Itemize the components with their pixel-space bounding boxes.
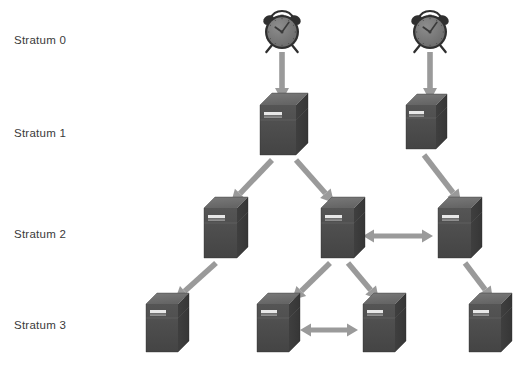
server-led-strip	[367, 310, 383, 313]
server-led-strip	[442, 215, 459, 218]
stratum-hierarchy-diagram	[0, 0, 525, 374]
arrow-head-end	[347, 324, 358, 337]
server-led-strip	[264, 112, 282, 115]
arrow-shaft	[346, 261, 373, 292]
server-stratum3-b	[257, 293, 300, 352]
servers-layer	[146, 93, 512, 352]
server-led-strip-secondary	[150, 314, 166, 315]
server-led-strip	[409, 111, 424, 114]
server-stratum3-d	[469, 293, 512, 352]
clock-tick	[423, 20, 424, 21]
arrow-stratum1-a-to-stratum2-b	[294, 158, 334, 203]
arrow-shaft	[183, 261, 218, 293]
server-led-strip	[325, 215, 342, 218]
server-stratum2-c	[438, 197, 482, 258]
label-stratum-1: Stratum 1	[14, 128, 66, 140]
arrow-shaft	[463, 261, 488, 291]
arrow-shaft	[238, 158, 274, 195]
reference-clock-right	[409, 11, 450, 52]
server-led-strip-secondary	[325, 219, 342, 220]
server-led-strip-secondary	[208, 219, 225, 220]
server-led-strip	[473, 310, 489, 313]
arrow-shaft	[311, 327, 347, 332]
clock-tick	[275, 20, 276, 21]
clock-tick	[275, 43, 276, 44]
clock-tick	[288, 20, 289, 21]
clock-tick	[436, 43, 437, 44]
clock-tick	[293, 25, 294, 26]
arrow-shaft	[422, 153, 456, 194]
arrow-stratum1-a-to-stratum2-a	[231, 158, 274, 203]
clock-tick	[423, 43, 424, 44]
clock-tick	[441, 25, 442, 26]
arrow-shaft	[299, 261, 332, 293]
server-stratum2-a	[204, 197, 248, 258]
clocks-layer	[261, 11, 450, 52]
arrow-head-end	[422, 230, 433, 243]
arrow-stratum1-b-to-stratum2-c	[422, 153, 461, 203]
reference-clock-left	[261, 11, 302, 52]
arrow-peer-stratum2-b-c	[363, 230, 433, 243]
server-stratum1-a	[260, 93, 308, 155]
server-stratum2-b	[321, 197, 365, 258]
clock-center-pin	[281, 31, 284, 34]
clock-tick	[270, 38, 271, 39]
clock-tick	[441, 38, 442, 39]
label-stratum-2: Stratum 2	[14, 229, 66, 241]
server-led-strip	[150, 310, 166, 313]
server-led-strip-secondary	[261, 314, 277, 315]
server-led-strip	[208, 215, 225, 218]
server-stratum1-b	[406, 94, 447, 149]
arrow-shaft	[427, 52, 433, 88]
clock-tick	[418, 38, 419, 39]
clock-tick	[418, 25, 419, 26]
arrow-head-start	[300, 324, 311, 337]
label-stratum-0: Stratum 0	[14, 35, 66, 47]
clock-tick	[288, 43, 289, 44]
server-led-strip-secondary	[367, 314, 383, 315]
server-led-strip-secondary	[409, 115, 424, 116]
arrow-shaft	[374, 233, 422, 238]
server-stratum3-a	[146, 293, 189, 352]
server-led-strip	[261, 310, 277, 313]
server-led-strip-secondary	[442, 219, 459, 220]
diagram-canvas: Stratum 0Stratum 1Stratum 2Stratum 3	[0, 0, 525, 374]
server-stratum3-c	[363, 293, 406, 352]
label-stratum-3: Stratum 3	[14, 320, 66, 332]
clock-tick	[436, 20, 437, 21]
clock-tick	[293, 38, 294, 39]
arrow-shaft	[279, 52, 285, 88]
clock-center-pin	[429, 31, 432, 34]
server-led-strip-secondary	[473, 314, 489, 315]
arrow-peer-stratum3-b-c	[300, 324, 358, 337]
clock-tick	[270, 25, 271, 26]
arrow-shaft	[294, 158, 328, 195]
server-led-strip-secondary	[264, 116, 282, 117]
